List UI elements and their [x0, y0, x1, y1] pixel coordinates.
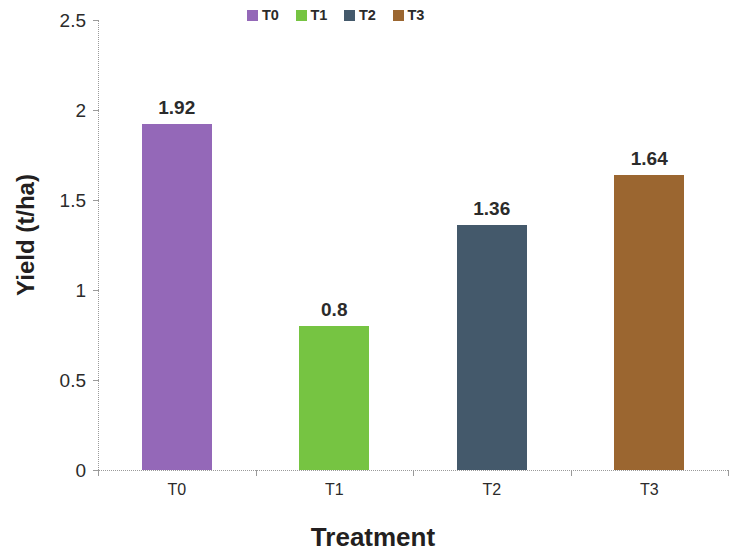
x-tick-label-t3: T3: [640, 482, 659, 498]
bar-chart: T0T1T2T3 00.511.522.5 1.920.81.361.64 T0…: [0, 0, 746, 559]
plot-area: 00.511.522.5 1.920.81.361.64 T0T1T2T3: [98, 20, 728, 470]
x-tick-label-t1: T1: [325, 482, 344, 498]
y-tick-label: 1: [75, 281, 86, 300]
bar-value-label: 1.64: [631, 149, 668, 168]
y-tick-mark: [93, 380, 99, 381]
y-tick-mark: [93, 200, 99, 201]
y-tick-label: 0: [75, 461, 86, 480]
bar-value-label: 1.92: [158, 98, 195, 117]
y-tick-mark: [93, 110, 99, 111]
x-axis-title: Treatment: [0, 524, 746, 550]
x-tick-mark: [571, 470, 572, 476]
x-tick-label-t2: T2: [482, 482, 501, 498]
y-tick-label: 0.5: [60, 371, 86, 390]
x-tick-label-t0: T0: [167, 482, 186, 498]
y-tick-label: 2: [75, 101, 86, 120]
y-axis-line: [98, 20, 99, 470]
x-tick-mark: [413, 470, 414, 476]
bar-t0[interactable]: 1.92: [142, 124, 212, 470]
x-tick-mark: [256, 470, 257, 476]
y-tick-mark: [93, 20, 99, 21]
bar-value-label: 1.36: [473, 199, 510, 218]
bar-t1[interactable]: 0.8: [299, 326, 369, 470]
bar-t3[interactable]: 1.64: [614, 175, 684, 470]
x-tick-mark: [728, 470, 729, 476]
y-tick-mark: [93, 290, 99, 291]
y-tick-label: 1.5: [60, 191, 86, 210]
x-tick-mark: [98, 470, 99, 476]
y-tick-label: 2.5: [60, 11, 86, 30]
y-axis-title: Yield (t/ha): [14, 174, 38, 296]
bar-value-label: 0.8: [321, 300, 347, 319]
bar-t2[interactable]: 1.36: [457, 225, 527, 470]
